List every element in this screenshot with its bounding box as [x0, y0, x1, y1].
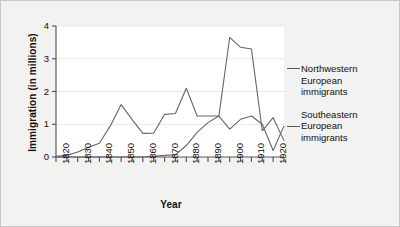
x-tick-label: 1910	[255, 143, 266, 164]
legend-item-southeastern: Southeastern European immigrants	[301, 109, 397, 144]
x-tick-label: 1890	[212, 143, 223, 164]
legend-label-line-1: Northwestern	[301, 63, 397, 75]
x-tick-label: 1870	[169, 143, 180, 164]
chart-legend: Northwestern European immigrants Southea…	[301, 63, 397, 154]
x-tick-label: 1850	[125, 143, 136, 164]
x-tick-label: 1900	[234, 143, 245, 164]
y-axis-title: Immigration (in millions)	[27, 13, 38, 173]
legend-line-swatch-southeastern	[287, 126, 300, 127]
legend-label-line-3: immigrants	[301, 86, 397, 98]
x-tick-label: 1860	[147, 143, 158, 164]
x-tick-label: 1830	[82, 143, 93, 164]
legend-label-line-3: immigrants	[301, 132, 397, 144]
legend-label-line-2: European	[301, 75, 397, 87]
x-axis-title: Year	[131, 199, 211, 210]
series-line-northwestern	[56, 37, 284, 156]
gridlines-group	[56, 26, 284, 124]
legend-label-southeastern: Southeastern European immigrants	[301, 109, 397, 144]
x-tick-label: 1840	[103, 143, 114, 164]
legend-label-northwestern: Northwestern European immigrants	[301, 63, 397, 98]
chart-figure: 01234 1820183018401850186018701880189019…	[0, 0, 400, 227]
legend-label-line-2: European	[301, 120, 397, 132]
legend-line-swatch-northwestern	[287, 68, 300, 69]
legend-label-line-1: Southeastern	[301, 109, 397, 121]
x-tick-label: 1880	[190, 143, 201, 164]
x-tick-label: 1820	[60, 143, 71, 164]
legend-item-northwestern: Northwestern European immigrants	[301, 63, 397, 98]
x-tick-label: 1920	[277, 143, 288, 164]
tick-marks-group	[52, 26, 284, 162]
data-series-group	[56, 37, 284, 157]
